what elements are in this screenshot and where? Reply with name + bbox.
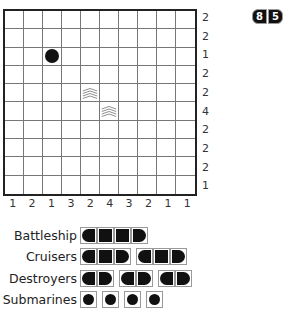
grid-cell[interactable] bbox=[176, 66, 195, 84]
grid-cell[interactable] bbox=[138, 66, 157, 84]
grid-cell[interactable] bbox=[62, 48, 81, 66]
grid-cell[interactable] bbox=[43, 121, 62, 139]
grid-cell[interactable] bbox=[100, 139, 119, 157]
grid-cell[interactable] bbox=[138, 121, 157, 139]
grid-cell[interactable] bbox=[176, 84, 195, 102]
grid-cell[interactable] bbox=[43, 102, 62, 120]
grid-cell[interactable] bbox=[24, 102, 43, 120]
grid-cell[interactable] bbox=[5, 29, 24, 47]
grid-cell[interactable] bbox=[119, 11, 138, 29]
grid-cell[interactable] bbox=[62, 11, 81, 29]
grid-cell[interactable] bbox=[24, 139, 43, 157]
grid-cell[interactable] bbox=[157, 29, 176, 47]
grid-cell[interactable] bbox=[119, 157, 138, 175]
grid-cell[interactable] bbox=[24, 29, 43, 47]
grid-cell[interactable] bbox=[5, 121, 24, 139]
grid-cell[interactable] bbox=[43, 176, 62, 194]
grid-cell[interactable] bbox=[100, 121, 119, 139]
grid-cell[interactable] bbox=[176, 121, 195, 139]
grid-cell[interactable] bbox=[5, 176, 24, 194]
grid-cell[interactable] bbox=[100, 48, 119, 66]
grid-cell[interactable] bbox=[157, 84, 176, 102]
grid-cell[interactable] bbox=[81, 102, 100, 120]
grid-cell[interactable] bbox=[100, 66, 119, 84]
grid-cell[interactable] bbox=[138, 29, 157, 47]
grid-cell[interactable] bbox=[176, 29, 195, 47]
grid-cell[interactable] bbox=[119, 66, 138, 84]
grid-cell[interactable] bbox=[119, 29, 138, 47]
grid-cell[interactable] bbox=[119, 48, 138, 66]
grid-cell[interactable] bbox=[157, 157, 176, 175]
grid-cell[interactable] bbox=[43, 139, 62, 157]
grid-cell[interactable] bbox=[43, 11, 62, 29]
grid-cell[interactable] bbox=[81, 176, 100, 194]
grid-cell[interactable] bbox=[5, 157, 24, 175]
grid-cell[interactable] bbox=[176, 139, 195, 157]
grid-cell[interactable] bbox=[100, 157, 119, 175]
grid-cell[interactable] bbox=[43, 84, 62, 102]
grid-cell[interactable] bbox=[5, 48, 24, 66]
grid-cell[interactable] bbox=[62, 84, 81, 102]
grid-cell[interactable] bbox=[24, 176, 43, 194]
grid-cell[interactable] bbox=[157, 121, 176, 139]
grid-cell[interactable] bbox=[157, 176, 176, 194]
grid-cell[interactable] bbox=[100, 11, 119, 29]
grid-cell[interactable] bbox=[24, 84, 43, 102]
grid-cell[interactable] bbox=[100, 102, 119, 120]
grid-cell[interactable] bbox=[176, 157, 195, 175]
grid-cell[interactable] bbox=[119, 139, 138, 157]
grid-cell[interactable] bbox=[119, 102, 138, 120]
grid-cell[interactable] bbox=[81, 139, 100, 157]
grid-cell[interactable] bbox=[5, 66, 24, 84]
grid-cell[interactable] bbox=[138, 139, 157, 157]
grid-cell[interactable] bbox=[176, 176, 195, 194]
grid-cell[interactable] bbox=[138, 157, 157, 175]
grid-cell[interactable] bbox=[62, 102, 81, 120]
grid-cell[interactable] bbox=[176, 48, 195, 66]
grid-cell[interactable] bbox=[81, 84, 100, 102]
grid-cell[interactable] bbox=[62, 29, 81, 47]
grid-cell[interactable] bbox=[5, 84, 24, 102]
grid-cell[interactable] bbox=[138, 176, 157, 194]
grid-cell[interactable] bbox=[62, 176, 81, 194]
grid-cell[interactable] bbox=[81, 11, 100, 29]
grid-cell[interactable] bbox=[62, 121, 81, 139]
grid-cell[interactable] bbox=[100, 29, 119, 47]
grid-cell[interactable] bbox=[157, 66, 176, 84]
grid-cell[interactable] bbox=[157, 11, 176, 29]
grid-cell[interactable] bbox=[81, 121, 100, 139]
grid-cell[interactable] bbox=[100, 176, 119, 194]
grid-cell[interactable] bbox=[24, 48, 43, 66]
grid-cell[interactable] bbox=[157, 139, 176, 157]
grid-cell[interactable] bbox=[62, 157, 81, 175]
grid-cell[interactable] bbox=[119, 121, 138, 139]
grid-cell[interactable] bbox=[62, 66, 81, 84]
grid-cell[interactable] bbox=[119, 84, 138, 102]
grid-cell[interactable] bbox=[176, 11, 195, 29]
grid-cell[interactable] bbox=[81, 66, 100, 84]
grid-cell[interactable] bbox=[138, 84, 157, 102]
grid-cell[interactable] bbox=[43, 48, 62, 66]
grid-cell[interactable] bbox=[5, 102, 24, 120]
grid-cell[interactable] bbox=[157, 48, 176, 66]
grid-cell[interactable] bbox=[5, 139, 24, 157]
grid-cell[interactable] bbox=[138, 48, 157, 66]
grid-cell[interactable] bbox=[176, 102, 195, 120]
grid-cell[interactable] bbox=[24, 11, 43, 29]
grid-cell[interactable] bbox=[119, 176, 138, 194]
grid-cell[interactable] bbox=[157, 102, 176, 120]
grid-cell[interactable] bbox=[24, 157, 43, 175]
grid-cell[interactable] bbox=[43, 157, 62, 175]
grid-cell[interactable] bbox=[81, 29, 100, 47]
grid-cell[interactable] bbox=[24, 66, 43, 84]
grid-cell[interactable] bbox=[138, 11, 157, 29]
grid-cell[interactable] bbox=[43, 29, 62, 47]
grid-cell[interactable] bbox=[62, 139, 81, 157]
grid-cell[interactable] bbox=[81, 157, 100, 175]
grid-cell[interactable] bbox=[138, 102, 157, 120]
grid-cell[interactable] bbox=[81, 48, 100, 66]
grid-cell[interactable] bbox=[5, 11, 24, 29]
grid-cell[interactable] bbox=[24, 121, 43, 139]
grid-cell[interactable] bbox=[43, 66, 62, 84]
grid-cell[interactable] bbox=[100, 84, 119, 102]
